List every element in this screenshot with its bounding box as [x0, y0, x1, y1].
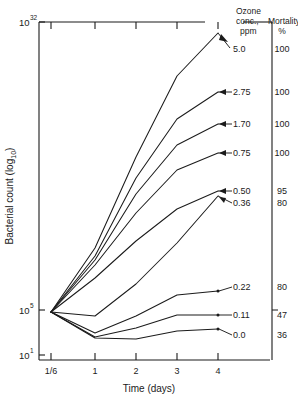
- legend-leader-arrowheads: [219, 34, 228, 203]
- x-tick-labels: 1/6 1 2 3 4: [45, 366, 221, 376]
- curve-ozone-0-75: [51, 153, 218, 312]
- legend-header-line2: conc.,: [236, 16, 259, 26]
- svg-text:Bacterial count (log10): Bacterial count (log10): [4, 148, 17, 245]
- legend-mortality-0: 100: [274, 44, 289, 54]
- y-tick-label-mid-mantissa: 10: [19, 305, 30, 316]
- y-tick-label-mid-exponent: 5: [30, 302, 34, 309]
- legend-mortality-6: 80: [277, 282, 287, 292]
- x-tick-label-3: 3: [174, 366, 179, 376]
- legend-conc-6: 0.22: [233, 282, 251, 292]
- legend-mortality-5: 80: [277, 198, 287, 208]
- y-axis-title: Bacterial count (log10): [4, 148, 17, 245]
- y-axis-title-main: Bacterial count (log: [4, 159, 15, 245]
- arrowhead-ozone-0-75: [219, 150, 226, 156]
- legend-mortality-7: 47: [277, 310, 287, 320]
- legend-mortality-1: 100: [274, 87, 289, 97]
- y-axis-title-tail: ): [4, 148, 15, 151]
- leader-ozone-0-22: [219, 287, 232, 291]
- y-axis-ticks: [39, 22, 45, 355]
- leader-ozone-0-0: [219, 329, 232, 335]
- x-axis-ticks: [51, 353, 218, 360]
- legend-mortality-4: 95: [277, 186, 287, 196]
- x-axis-title: Time (days): [123, 383, 175, 394]
- legend-header-mortality-line1: Mortality,: [268, 16, 298, 26]
- y-axis-title-subscript: 10: [10, 151, 17, 159]
- x-tick-label-2: 2: [133, 366, 138, 376]
- y-tick-label-bottom-mantissa: 10: [19, 350, 30, 361]
- legend-conc-3: 0.75: [233, 148, 251, 158]
- legend-conc-7: 0.11: [233, 310, 250, 320]
- curve-ozone-0-0: [51, 312, 218, 339]
- legend-conc-2: 1.70: [233, 119, 251, 129]
- legend-conc-0: 5.0: [233, 44, 246, 54]
- y-tick-labels: 10 32 10 5 10 1: [19, 14, 38, 361]
- arrowhead-ozone-0-50: [219, 188, 226, 194]
- arrowhead-ozone-2-75: [219, 89, 226, 95]
- legend-leader-lines: [218, 33, 232, 335]
- legend-conc-5: 0.36: [233, 198, 251, 208]
- legend-conc-4: 0.50: [233, 186, 251, 196]
- curve-ozone-1-70: [51, 124, 218, 312]
- chart-svg: 10 32 10 5 10 1 1/6 1 2 3: [0, 0, 298, 396]
- legend-mortality-2: 100: [274, 119, 289, 129]
- legend-header-ozone: Ozone conc., ppm: [236, 6, 261, 36]
- legend-conc-1: 2.75: [233, 87, 251, 97]
- y-tick-label-top-exponent: 32: [30, 14, 38, 21]
- curve-ozone-5-0: [51, 33, 218, 312]
- data-curves: [51, 33, 218, 339]
- figure-container: 10 32 10 5 10 1 1/6 1 2 3: [0, 0, 298, 396]
- data-point-markers: [217, 290, 220, 331]
- y-tick-label-top-mantissa: 10: [19, 17, 30, 28]
- legend-header-line3: ppm: [240, 26, 257, 36]
- x-axis-top-ticks: [51, 22, 218, 29]
- curve-ozone-0-36: [51, 196, 218, 316]
- legend-mortality-3: 100: [274, 148, 289, 158]
- x-tick-label-4: 4: [215, 366, 220, 376]
- arrowhead-ozone-0-36: [219, 197, 226, 203]
- legend-conc-8: 0.0: [233, 330, 246, 340]
- x-tick-label-0: 1/6: [45, 366, 58, 376]
- legend-block: Ozone conc., ppm Mortality, % 5.0 100 2.…: [233, 6, 298, 340]
- y-tick-label-bottom-exponent: 1: [30, 347, 34, 354]
- legend-rows: 5.0 100 2.75 100 1.70 100 0.75 100 0.50 …: [233, 44, 290, 340]
- legend-header-mortality-line2: %: [278, 26, 286, 36]
- arrowhead-ozone-1-70: [219, 121, 226, 127]
- legend-header-line1: Ozone: [236, 6, 261, 16]
- legend-mortality-8: 36: [277, 330, 287, 340]
- x-tick-label-1: 1: [92, 366, 97, 376]
